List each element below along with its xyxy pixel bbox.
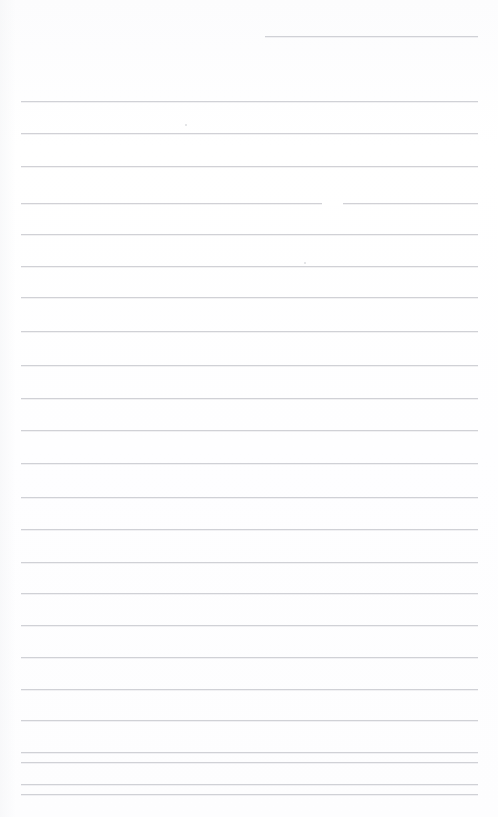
- ruled-line: [21, 497, 478, 498]
- ruled-line: [21, 529, 478, 530]
- ruled-line: [21, 331, 478, 332]
- ruled-line: [21, 593, 478, 594]
- ruled-line-gap-artifact: [322, 202, 343, 205]
- ruled-line: [21, 166, 478, 167]
- ruled-line: [21, 101, 478, 102]
- ruled-line: [21, 430, 478, 431]
- scanned-page: [0, 0, 498, 817]
- ruled-line: [21, 689, 478, 690]
- ruled-line: [21, 752, 478, 753]
- ruled-line: [21, 794, 478, 795]
- ruled-line: [21, 463, 478, 464]
- ruled-lines-layer: [0, 0, 498, 817]
- ruled-line-partial: [265, 36, 478, 37]
- scan-speck: [304, 262, 306, 264]
- ruled-line: [21, 720, 478, 721]
- ruled-line: [21, 784, 478, 785]
- ruled-line: [21, 762, 478, 763]
- ruled-line: [21, 297, 478, 298]
- ruled-line: [21, 133, 478, 134]
- scan-speck: [185, 124, 187, 126]
- ruled-line: [21, 365, 478, 366]
- ruled-line: [21, 657, 478, 658]
- ruled-line: [21, 625, 478, 626]
- ruled-line: [21, 203, 478, 204]
- ruled-line: [21, 398, 478, 399]
- ruled-line: [21, 562, 478, 563]
- ruled-line: [21, 234, 478, 235]
- ruled-line: [21, 266, 478, 267]
